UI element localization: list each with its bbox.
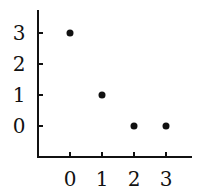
y-tick-label: 3 — [13, 21, 26, 45]
x-tick-label: 0 — [64, 167, 77, 191]
x-tick-label: 3 — [160, 167, 173, 191]
data-points — [67, 30, 170, 130]
y-tick-label: 1 — [13, 83, 26, 107]
scatter-chart: 0123 0123 — [0, 0, 203, 195]
data-point — [99, 92, 106, 99]
y-tick-label: 2 — [13, 52, 26, 76]
data-point — [131, 123, 138, 130]
axes — [37, 10, 192, 158]
y-tick-label: 0 — [13, 114, 26, 138]
x-tick-label: 1 — [96, 167, 109, 191]
data-point — [67, 30, 74, 37]
data-point — [163, 123, 170, 130]
x-tick-label: 2 — [128, 167, 141, 191]
